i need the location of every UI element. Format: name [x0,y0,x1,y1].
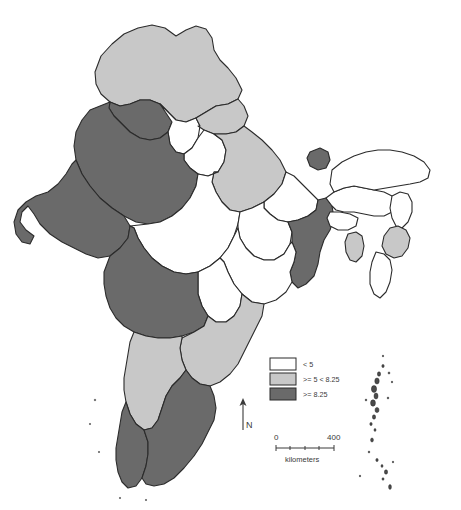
legend-swatch-1 [270,373,296,385]
legend-label-1: >= 5 < 8.25 [303,375,340,384]
legend-label-0: < 5 [303,360,313,369]
india-choropleth-map: < 5 >= 5 < 8.25 >= 8.25 N 0 400 kilomete… [0,0,461,510]
legend-swatch-0 [270,358,296,370]
north-arrow-label: N [246,420,253,430]
scale-max-label: 400 [327,433,341,442]
region-sikkim[interactable] [307,148,330,170]
scale-units-label: kilometers [285,455,319,464]
legend-swatch-2 [270,388,296,400]
map-canvas: < 5 >= 5 < 8.25 >= 8.25 N 0 400 kilomete… [0,0,461,510]
legend-label-2: >= 8.25 [303,390,327,399]
scale-min-label: 0 [274,433,279,442]
